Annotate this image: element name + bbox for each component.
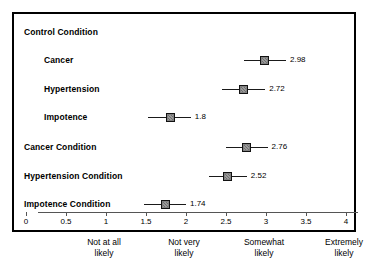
data-point-value-label: 2.72	[269, 84, 285, 93]
data-point-marker	[223, 172, 232, 181]
x-axis-tick-label: 3	[264, 217, 268, 226]
anchor-label-line2: likely	[244, 248, 284, 259]
data-point-value-label: 2.52	[251, 171, 267, 180]
x-axis-line	[38, 212, 358, 213]
x-axis-tick-label: 3.5	[300, 217, 311, 226]
data-point-value-label: 1.8	[195, 112, 206, 121]
data-point-value-label: 1.74	[190, 199, 206, 208]
anchor-label: Not at alllikely	[87, 237, 121, 259]
row-label: Impotence	[44, 112, 87, 122]
x-axis-tick	[346, 212, 347, 216]
row-label: Cancer Condition	[24, 142, 96, 152]
x-axis-tick-label: 1.5	[140, 217, 151, 226]
data-point-marker	[242, 143, 251, 152]
data-point-marker	[260, 56, 269, 65]
x-axis-tick-label: 1	[104, 217, 108, 226]
x-axis-tick	[186, 212, 187, 216]
x-axis-tick	[66, 212, 67, 216]
anchor-label-line2: likely	[325, 248, 363, 259]
x-axis-tick-label: 2	[184, 217, 188, 226]
row-label: Impotence Condition	[24, 199, 110, 209]
x-axis-tick	[26, 212, 27, 216]
chart-figure: Control ConditionCancer2.98Hypertension2…	[0, 0, 369, 275]
x-axis-tick	[106, 212, 107, 216]
x-axis-tick-label: 2.5	[220, 217, 231, 226]
anchor-label: Not verylikely	[168, 237, 200, 259]
row-label: Hypertension	[44, 84, 100, 94]
data-point-value-label: 2.76	[272, 142, 288, 151]
x-axis-tick-label: 0	[24, 217, 28, 226]
anchor-label-line2: likely	[87, 248, 121, 259]
anchor-label-line1: Not very	[168, 237, 200, 248]
anchor-label-line1: Extremely	[325, 237, 363, 248]
anchor-label-line1: Somewhat	[244, 237, 284, 248]
row-label: Control Condition	[24, 27, 98, 37]
x-axis-tick	[146, 212, 147, 216]
plot-frame: Control ConditionCancer2.98Hypertension2…	[12, 12, 356, 232]
data-point-value-label: 2.98	[290, 55, 306, 64]
data-point-marker	[239, 85, 248, 94]
x-axis-tick	[266, 212, 267, 216]
x-axis-tick-label: 4	[344, 217, 348, 226]
anchor-label: Somewhatlikely	[244, 237, 284, 259]
row-label: Cancer	[44, 55, 73, 65]
anchor-label-line1: Not at all	[87, 237, 121, 248]
x-axis-tick	[306, 212, 307, 216]
x-axis-tick	[226, 212, 227, 216]
data-point-marker	[161, 200, 170, 209]
anchor-label-line2: likely	[168, 248, 200, 259]
x-axis-tick-label: 0.5	[60, 217, 71, 226]
anchor-label: Extremelylikely	[325, 237, 363, 259]
data-point-marker	[166, 113, 175, 122]
row-label: Hypertension Condition	[24, 171, 123, 181]
